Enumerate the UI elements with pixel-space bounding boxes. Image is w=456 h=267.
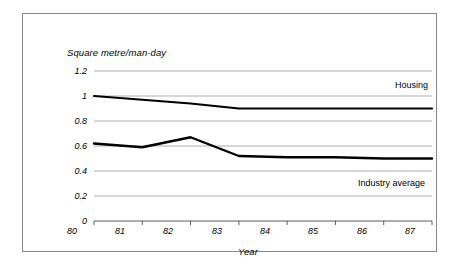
chart-border: Square metre/man-day 1.2 1 0.8 0.6 0.4 0… [22,13,437,252]
x-axis-title: Year [238,246,258,257]
series-line-industry-average [94,137,432,158]
y-tick-label-0_6: 0.6 [61,141,87,151]
y-tick-label-1_2: 1.2 [61,66,87,76]
chart-figure: Square metre/man-day 1.2 1 0.8 0.6 0.4 0… [0,0,456,267]
gridlines [94,71,432,196]
y-tick-label-1: 1 [61,91,87,101]
axis-ticks [94,221,432,225]
x-tick-label-85: 85 [301,226,325,236]
x-tick-label-87: 87 [398,226,422,236]
y-tick-label-0: 0 [61,216,87,226]
x-tick-label-84: 84 [253,226,277,236]
series-line-housing [94,96,432,109]
plot-area [94,71,432,221]
x-tick-label-80: 80 [60,226,84,236]
y-tick-label-0_2: 0.2 [61,191,87,201]
x-tick-label-83: 83 [205,226,229,236]
chart-canvas [94,71,432,221]
x-tick-label-86: 86 [350,226,374,236]
x-tick-label-82: 82 [156,226,180,236]
y-tick-label-0_8: 0.8 [61,116,87,126]
y-tick-label-0_4: 0.4 [61,166,87,176]
x-tick-label-81: 81 [108,226,132,236]
y-axis-title: Square metre/man-day [67,47,166,58]
